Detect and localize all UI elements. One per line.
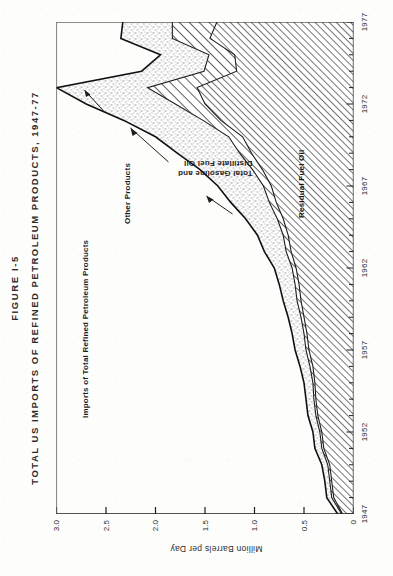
figure-stage: FIGURE I-5 TOTAL US IMPORTS OF REFINED P… <box>0 0 393 576</box>
stacked-area-chart <box>56 22 353 514</box>
chart-plot-area: Imports of Total Refined Petroleum Produ… <box>56 22 353 514</box>
y-tick-label: 3.0 <box>52 520 61 540</box>
x-tick-label: 1947 <box>359 505 368 524</box>
x-tick-label: 1957 <box>359 341 368 360</box>
y-axis-ticks <box>56 507 353 514</box>
y-axis-title: Million Barrels per Day <box>170 544 262 554</box>
annotation-residual-fuel-oil: Residual Fuel Oil <box>296 150 306 218</box>
scanned-page: FIGURE I-5 TOTAL US IMPORTS OF REFINED P… <box>0 0 393 576</box>
y-tick-label: 2.0 <box>151 520 160 540</box>
y-tick-label: 0 <box>349 520 358 540</box>
y-tick-label: 1.5 <box>200 520 209 540</box>
annotation-total-imports: Imports of Total Refined Petroleum Produ… <box>80 240 90 418</box>
annotation-gasoline-distillate-line1: Total Gasoline and <box>177 168 252 178</box>
annotation-gasoline-distillate-line2: Distillate Fuel Oil <box>177 158 252 168</box>
x-tick-label: 1952 <box>359 423 368 442</box>
figure-number: FIGURE I-5 <box>8 0 19 576</box>
figure-title: TOTAL US IMPORTS OF REFINED PETROLEUM PR… <box>28 0 39 576</box>
x-tick-label: 1962 <box>359 259 368 278</box>
x-tick-label: 1972 <box>359 95 368 114</box>
y-tick-label: 0.5 <box>299 520 308 540</box>
annotation-other-products: Other Products <box>122 163 132 224</box>
x-tick-label: 1967 <box>359 177 368 196</box>
x-tick-label: 1977 <box>359 13 368 32</box>
y-tick-label: 2.5 <box>101 520 110 540</box>
annotation-gasoline-distillate: Total Gasoline and Distillate Fuel Oil <box>177 158 252 178</box>
y-tick-label: 1.0 <box>250 520 259 540</box>
